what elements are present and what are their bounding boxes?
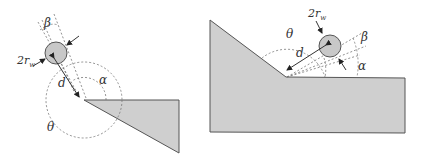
right-ground-shape [210,20,405,133]
left-radius-label-main: 2r [16,54,30,67]
right-radius-label: 2rw [307,7,326,22]
wedge-diagram-figure: β 2rw d α θ 2rw θ d β α [0,0,422,159]
left-radius-label-sub: w [29,61,35,69]
left-theta-label: θ [47,120,55,134]
right-distance-arrow [287,45,326,70]
right-alpha-label: α [358,59,366,73]
left-beta-label: β [43,16,51,30]
right-distance-label: d [296,46,304,60]
right-beta-label: β [360,30,368,44]
right-radius-label-main: 2r [307,7,321,20]
right-alpha-dashed-arc-inner [324,58,326,77]
right-particle-circle [319,35,341,57]
right-diagram: 2rw θ d β α [210,7,405,133]
right-radius-arrow-top [316,21,322,33]
left-wedge-shape [84,100,179,153]
right-radius-label-sub: w [320,14,326,22]
right-theta-label: θ [286,27,294,41]
left-distance-label: d [58,76,66,90]
left-radius-label: 2rw [16,54,35,69]
left-diagram: β 2rw d α θ [16,14,179,153]
left-alpha-label: α [99,73,107,87]
left-radius-arrow-right [67,36,79,45]
